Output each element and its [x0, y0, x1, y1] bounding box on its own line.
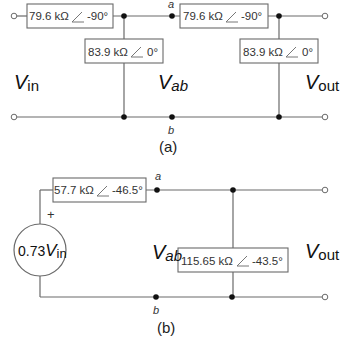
node-b-dot: [153, 294, 159, 300]
node-b-label: b: [168, 124, 174, 136]
impedance-angle: -43.5°: [252, 255, 283, 267]
series-impedance-2: 79.6 kΩ -90°: [180, 4, 268, 28]
node-a-dot: [169, 13, 175, 19]
series-impedance-1: 79.6 kΩ -90°: [27, 4, 113, 28]
input-terminal-bottom: [11, 114, 17, 120]
input-terminal-top: [11, 13, 17, 19]
vab-label: Vab: [152, 241, 182, 264]
impedance-magnitude: 115.65 kΩ: [181, 255, 233, 267]
impedance-angle: 0°: [147, 46, 158, 58]
output-terminal-top: [322, 13, 328, 19]
impedance-angle: 0°: [302, 46, 313, 58]
circuit-a: 79.6 kΩ -90° 83.9 kΩ 0° 79.6 kΩ -90° 83.…: [11, 0, 340, 155]
node-a-label: a: [168, 0, 174, 10]
junction-dot: [229, 294, 235, 300]
node-a-dot: [154, 187, 160, 193]
circuit-b: 57.7 kΩ -46.5° 0.73Vin + 115.65 kΩ -43.5…: [14, 170, 340, 336]
vab-label: Vab: [158, 71, 188, 94]
impedance-magnitude: 83.9 kΩ: [88, 46, 128, 58]
junction-dot: [121, 114, 127, 120]
thevenin-series-impedance: 57.7 kΩ -46.5°: [53, 178, 146, 202]
node-a-label: a: [155, 170, 161, 182]
output-terminal-bottom: [322, 294, 328, 300]
node-b-label: b: [153, 304, 159, 316]
shunt-impedance-2: 83.9 kΩ 0°: [240, 39, 318, 63]
node-b-dot: [169, 114, 175, 120]
junction-dot: [276, 13, 282, 19]
caption-b: (b): [157, 319, 175, 336]
impedance-angle: -90°: [87, 10, 108, 22]
junction-dot: [230, 187, 236, 193]
output-terminal-bottom: [322, 114, 328, 120]
plus-polarity-icon: +: [47, 207, 55, 222]
junction-dot: [121, 13, 127, 19]
impedance-magnitude: 79.6 kΩ: [29, 10, 69, 22]
impedance-magnitude: 79.6 kΩ: [183, 10, 223, 22]
load-shunt-impedance: 115.65 kΩ -43.5°: [178, 248, 288, 272]
vout-label: Vout: [305, 71, 340, 94]
output-terminal-top: [322, 187, 328, 193]
vin-label: Vin: [14, 71, 39, 94]
caption-a: (a): [159, 138, 177, 155]
impedance-angle: -90°: [241, 10, 262, 22]
impedance-angle: -46.5°: [112, 184, 143, 196]
impedance-magnitude: 57.7 kΩ: [54, 184, 94, 196]
vout-label: Vout: [305, 240, 340, 263]
impedance-magnitude: 83.9 kΩ: [243, 46, 283, 58]
circuit-diagram: 79.6 kΩ -90° 83.9 kΩ 0° 79.6 kΩ -90° 83.…: [0, 0, 344, 350]
shunt-impedance-1: 83.9 kΩ 0°: [85, 39, 163, 63]
junction-dot: [276, 114, 282, 120]
